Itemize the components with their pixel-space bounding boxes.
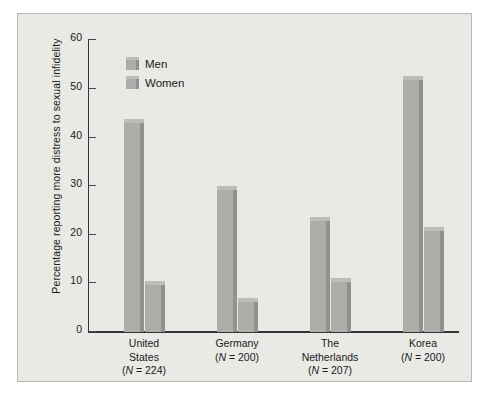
y-tick-0: 0 — [89, 331, 96, 332]
bar-germany-women — [238, 298, 258, 332]
x-category-sample-size: (N = 207) — [274, 364, 386, 378]
y-tick-label-60: 60 — [70, 31, 82, 43]
y-tick-50: 50 — [89, 88, 96, 89]
bar-front-face — [424, 231, 440, 332]
bar-side-face — [419, 80, 423, 332]
bar-united-states-women — [145, 281, 165, 332]
legend-label-women: Women — [145, 77, 184, 89]
bar-side-face — [161, 285, 165, 332]
y-axis-title: Percentage reporting more distress to se… — [50, 32, 62, 300]
legend-swatch-women-icon — [126, 76, 139, 89]
legend-swatch-men-icon — [126, 57, 139, 70]
bar-side-face — [233, 190, 237, 332]
y-tick-10: 10 — [89, 282, 96, 283]
bar-side-face — [326, 221, 330, 332]
bar-front-face — [145, 285, 161, 332]
legend-label-men: Men — [145, 58, 167, 70]
legend-item-women: Women — [126, 73, 184, 92]
bar-united-states-men — [124, 119, 144, 332]
bar-front-face — [238, 302, 254, 332]
bar-side-face — [347, 282, 351, 332]
x-category-sample-size: (N = 200) — [367, 351, 479, 365]
y-tick-60: 60 — [89, 39, 96, 40]
y-tick-label-10: 10 — [70, 274, 82, 286]
x-category-line: Korea — [367, 337, 479, 351]
legend-item-men: Men — [126, 54, 184, 73]
figure-panel: Percentage reporting more distress to se… — [17, 13, 472, 382]
bar-side-face — [440, 231, 444, 332]
bar-side-face — [254, 302, 258, 332]
bar-korea-women — [424, 227, 444, 332]
bar-the-netherlands-men — [310, 217, 330, 332]
bar-front-face — [124, 123, 140, 332]
y-tick-20: 20 — [89, 234, 96, 235]
y-tick-label-30: 30 — [70, 177, 82, 189]
y-tick-30: 30 — [89, 185, 96, 186]
x-category-korea: Korea (N = 200) — [367, 337, 479, 364]
bar-front-face — [403, 80, 419, 332]
bar-the-netherlands-women — [331, 278, 351, 332]
legend: Men Women — [126, 54, 184, 92]
bar-germany-men — [217, 186, 237, 332]
x-category-sample-size: (N = 224) — [88, 364, 200, 378]
bar-side-face — [140, 123, 144, 332]
y-tick-label-20: 20 — [70, 226, 82, 238]
y-tick-label-40: 40 — [70, 129, 82, 141]
bar-front-face — [217, 190, 233, 332]
y-tick-label-0: 0 — [76, 323, 82, 335]
bar-front-face — [310, 221, 326, 332]
bar-front-face — [331, 282, 347, 332]
y-tick-label-50: 50 — [70, 80, 82, 92]
y-tick-40: 40 — [89, 137, 96, 138]
bar-korea-men — [403, 76, 423, 332]
